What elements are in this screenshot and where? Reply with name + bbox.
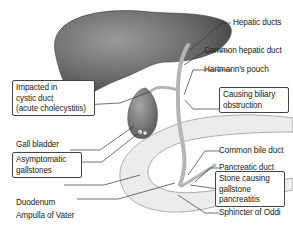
box-asymptomatic-line-2: gallstones [16,166,78,177]
gallstone [143,131,147,135]
box-biliary-line-2: obstruction [223,101,285,112]
box-pancreatitis-line-2: gallstone [219,185,281,196]
label-common-hepatic-duct: Common hepatic duct [204,46,282,56]
label-common-bile-duct: Common bile duct [219,146,283,156]
label-hartmanns-pouch: Hartmann's pouch [204,65,269,75]
box-impacted-line-3: (acute cholecystitis) [16,104,91,115]
label-gall-bladder: Gall bladder [16,140,59,150]
box-biliary-line-1: Causing biliary [223,90,285,101]
box-impacted-line-2: cystic duct [16,94,91,105]
box-asymptomatic-gallstones: Asymptomatic gallstones [12,152,82,178]
box-stone-causing-pancreatitis: Stone causing gallstone pancreatitis [215,171,285,207]
box-pancreatitis-line-3: pancreatitis [219,195,281,206]
box-causing-biliary-obstruction: Causing biliary obstruction [219,87,289,113]
label-sphincter-of-oddi: Sphincter of Oddi [219,208,281,218]
box-impacted-cystic-duct: Impacted in cystic duct (acute cholecyst… [12,80,95,116]
label-hepatic-ducts: Hepatic ducts [233,18,281,28]
box-impacted-line-1: Impacted in [16,83,91,94]
box-pancreatitis-line-1: Stone causing [219,174,281,185]
box-asymptomatic-line-1: Asymptomatic [16,155,78,166]
label-ampulla-of-vater: Ampulla of Vater [16,211,74,221]
gall-bladder-shape [128,88,158,139]
label-duodenum: Duodenum [16,198,55,208]
